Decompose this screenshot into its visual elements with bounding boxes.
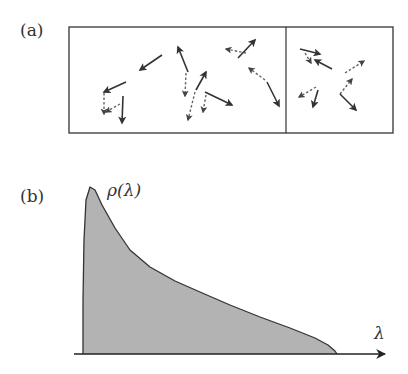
- solid-arrow-icon: [122, 96, 123, 123]
- panel-b-distribution-group: [74, 187, 385, 354]
- density-fill: [83, 187, 337, 354]
- panel-a-box-group: [69, 27, 393, 133]
- solid-arrow-icon: [178, 47, 188, 72]
- dashed-arrow-icon: [299, 87, 316, 97]
- solid-arrow-icon: [267, 82, 279, 106]
- dashed-arrow-icon: [185, 73, 186, 96]
- dashed-arrow-icon: [203, 95, 206, 112]
- solid-arrow-icon: [104, 82, 126, 92]
- dashed-arrow-icon: [188, 92, 195, 120]
- solid-arrow-icon: [238, 40, 255, 58]
- diagram-canvas: [0, 0, 408, 374]
- solid-arrow-icon: [205, 92, 232, 105]
- dashed-arrow-icon: [345, 61, 364, 73]
- solid-arrow-icon: [313, 90, 318, 107]
- panel-a-frame: [69, 27, 393, 133]
- solid-arrow-icon: [300, 49, 320, 54]
- dashed-arrow-icon: [249, 68, 265, 80]
- dashed-arrow-icon: [340, 79, 352, 94]
- solid-arrow-icon: [340, 94, 356, 110]
- solid-arrow-icon: [315, 60, 332, 69]
- dashed-arrow-icon: [305, 53, 311, 63]
- solid-arrow-icon: [140, 55, 162, 70]
- dashed-arrow-icon: [106, 104, 120, 112]
- solid-arrow-icon: [196, 72, 206, 90]
